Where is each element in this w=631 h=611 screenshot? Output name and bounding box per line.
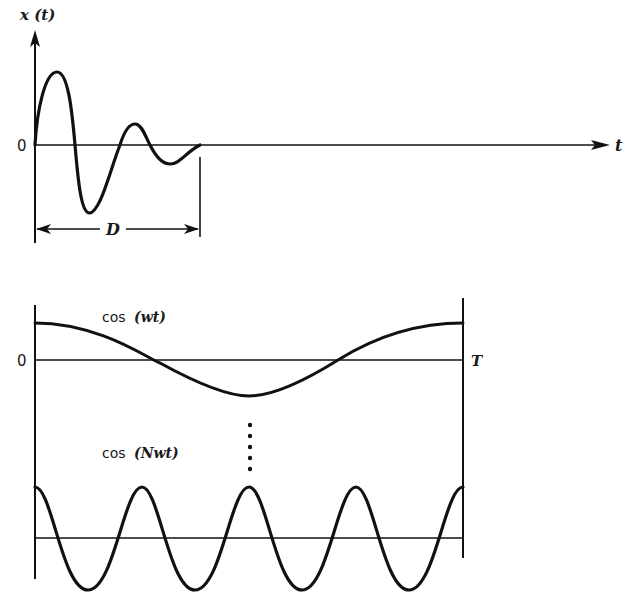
cos-nwt-arg: (Nwt) [134, 445, 179, 461]
cos-nwt-prefix: cos [102, 445, 126, 461]
bottom-zero-label: 0 [17, 352, 27, 370]
period-label: T [471, 352, 484, 370]
bottom-plot: 0 T cos (wt) cos (Nwt) [17, 298, 484, 590]
signal-curve [35, 72, 200, 213]
duration-label: D [105, 220, 120, 239]
cos-nwt-label: cos (Nwt) [102, 445, 179, 461]
cos-wt-label: cos (wt) [102, 309, 166, 325]
top-zero-label: 0 [17, 137, 27, 155]
top-y-label: x (t) [19, 6, 55, 24]
ellipsis-icon [248, 423, 252, 471]
cos-wt-prefix: cos [102, 309, 126, 325]
cos-wt-arg: (wt) [134, 309, 166, 325]
top-plot: x (t) 0 t D [17, 6, 623, 243]
top-x-label: t [615, 136, 623, 155]
diagram: x (t) 0 t D 0 T cos (wt) cos (Nw [0, 0, 631, 611]
